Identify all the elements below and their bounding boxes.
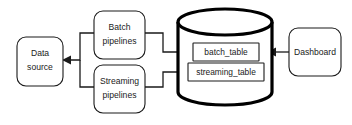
node-data-source[interactable]: Data source [17,37,63,86]
batch-pipelines-label-line1: Batch [109,22,131,32]
streaming-pipelines-label-line1: Streaming [100,76,139,86]
node-streaming-pipelines[interactable]: Streaming pipelines [94,65,145,113]
table-batch-label: batch_table [204,47,248,57]
streaming-pipelines-box[interactable] [94,65,145,113]
table-streaming-label: streaming_table [196,67,256,77]
cylinder-top-ellipse [178,9,272,35]
table-batch[interactable]: batch_table [193,43,259,61]
node-batch-pipelines[interactable]: Batch pipelines [94,11,145,59]
node-dashboard[interactable]: Dashboard [289,28,341,76]
batch-pipelines-box[interactable] [94,11,145,59]
pipeline-diagram: batch_table streaming_table Data source … [0,0,352,125]
table-streaming[interactable]: streaming_table [188,63,264,81]
dashboard-label: Dashboard [294,47,336,57]
edge-streaming-to-source [80,60,94,87]
streaming-pipelines-label-line2: pipelines [103,90,137,100]
data-source-label-line1: Data [31,48,49,58]
data-source-label-line2: source [27,62,53,72]
edge-batch-to-source [68,33,94,60]
batch-pipelines-label-line2: pipelines [103,36,137,46]
diagram-canvas: batch_table streaming_table Data source … [0,0,352,125]
